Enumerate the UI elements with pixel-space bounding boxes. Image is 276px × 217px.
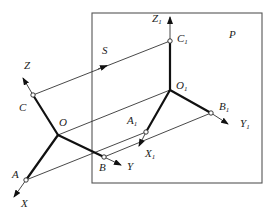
axis-y (58, 135, 104, 157)
label-y: Y (127, 160, 135, 172)
point-b (102, 155, 106, 159)
point-a (24, 178, 28, 182)
label-o1: O1 (176, 79, 187, 93)
point-a1 (144, 130, 148, 134)
label-x: X (20, 197, 29, 209)
label-z: Z (24, 59, 31, 71)
axis-x-arrow (14, 180, 26, 197)
label-o: O (59, 116, 67, 128)
axis-x1 (146, 90, 170, 132)
axis-z-arrow (23, 78, 33, 95)
label-z1: Z1 (152, 12, 162, 26)
label-b: B (99, 161, 106, 173)
label-a: A (11, 168, 19, 180)
label-a1: A1 (126, 114, 137, 128)
projection-diagram: Z C O A X B Y S P Z1 C1 O1 A1 X1 B1 Y1 (0, 0, 276, 217)
projection-line-o (58, 90, 170, 135)
label-s: S (102, 44, 108, 56)
axis-z (33, 95, 58, 135)
point-b1 (209, 111, 213, 115)
label-c1: C1 (177, 32, 188, 46)
point-c (31, 93, 35, 97)
label-y1: Y1 (240, 117, 250, 131)
axis-y1 (170, 90, 211, 113)
label-b1: B1 (219, 100, 229, 114)
axis-y1-arrow (211, 113, 228, 124)
point-c1 (168, 39, 172, 43)
axis-y-arrow (104, 157, 121, 165)
label-p: P (228, 28, 236, 40)
label-c: C (19, 101, 27, 113)
label-x1: X1 (144, 147, 155, 161)
direction-arrow-s (98, 66, 107, 70)
projection-line-b (104, 113, 211, 157)
